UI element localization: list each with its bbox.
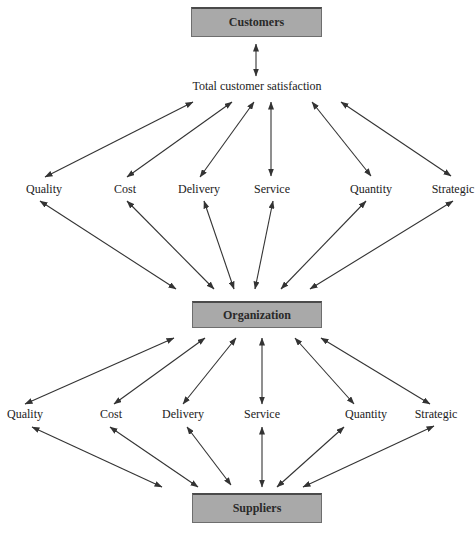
customers-box: Customers [191,7,322,37]
lower-delivery-label: Delivery [162,407,204,422]
total-customer-satisfaction-label: Total customer satisfaction [192,79,321,94]
upper-service-label: Service [254,182,290,197]
arrow-quality-organization [40,201,176,289]
arrow-quantity-suppliers [277,427,344,487]
arrow-strategic-suppliers [303,426,434,487]
arrow-quality-suppliers [32,427,162,487]
upper-cost-label: Cost [114,182,136,197]
arrow-satisfaction-quantity [312,102,371,176]
arrow-service-organization [255,201,273,289]
arrow-satisfaction-cost [127,102,232,177]
arrow-organization-quantity [295,338,354,404]
arrow-delivery-organization [204,201,234,289]
lower-cost-label: Cost [100,407,122,422]
lower-strategic-label: Strategic [415,407,458,422]
arrow-cost-suppliers [110,427,198,487]
lower-quality-label: Quality [7,407,43,422]
lower-service-label: Service [244,407,280,422]
arrow-organization-quality [25,338,174,404]
upper-delivery-label: Delivery [178,182,220,197]
arrow-organization-strategic [321,338,430,404]
arrow-quantity-organization [281,201,366,289]
upper-quality-label: Quality [26,182,62,197]
arrow-satisfaction-strategic [341,102,451,176]
lower-quantity-label: Quantity [345,407,387,422]
customers-label: Customers [229,15,284,30]
arrow-cost-organization [127,201,214,289]
arrow-strategic-organization [310,201,453,289]
supply-chain-diagram: Customers Total customer satisfaction Or… [0,0,475,534]
upper-quantity-label: Quantity [350,182,392,197]
upper-strategic-label: Strategic [432,182,475,197]
arrow-delivery-suppliers [187,427,231,485]
organization-box: Organization [192,301,322,328]
suppliers-box: Suppliers [192,493,322,523]
suppliers-label: Suppliers [233,501,282,516]
arrow-satisfaction-quality [45,102,193,177]
organization-label: Organization [223,308,291,323]
arrow-satisfaction-delivery [200,102,254,177]
